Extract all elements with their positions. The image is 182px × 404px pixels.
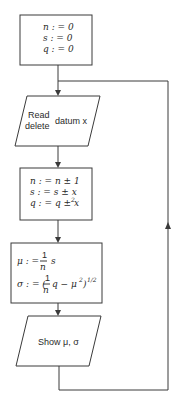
- update-line-s: s : = s ± x: [30, 187, 77, 197]
- mu-rhs: s: [51, 256, 56, 266]
- init-line-q: q : = 0: [43, 44, 74, 54]
- datum-label: datum x: [55, 116, 88, 126]
- node-show: Show μ, σ: [16, 316, 101, 366]
- sigma-frac-den: n: [43, 285, 49, 295]
- delete-label: delete: [25, 121, 50, 131]
- mu-frac-den: n: [40, 262, 46, 272]
- sigma-lhs: σ : = (: [17, 279, 46, 289]
- flowchart: n : = 0 s : = 0 q : = 0 Read delete datu…: [0, 0, 182, 404]
- node-init: n : = 0 s : = 0 q : = 0: [20, 15, 92, 65]
- sigma-rhs: q − μ: [52, 279, 77, 289]
- init-line-n: n : = 0: [43, 22, 74, 32]
- sigma-frac-num: 1: [45, 273, 50, 283]
- node-read: Read delete datum x: [15, 96, 100, 146]
- init-line-s: s : = 0: [43, 33, 73, 43]
- sigma-exp: 1/2: [87, 276, 97, 283]
- arrow-down-icon: [55, 237, 61, 243]
- arrow-down-icon: [55, 162, 61, 168]
- node-update: n : = n ± 1 s : = s ± x q : = q ± x 2: [20, 168, 92, 220]
- node-compute: μ : = 1 n s σ : = ( 1 n q − μ 2 ) 1/2: [11, 243, 102, 303]
- update-superscript: 2: [70, 196, 75, 203]
- read-label: Read: [28, 110, 50, 120]
- mu-frac-num: 1: [42, 250, 47, 260]
- mu-lhs: μ : =: [17, 256, 39, 266]
- arrow-down-icon: [55, 310, 61, 316]
- arrow-up-icon: [165, 222, 171, 229]
- arrow-down-icon: [55, 90, 61, 96]
- show-label: Show μ, σ: [38, 337, 79, 347]
- update-line-n: n : = n ± 1: [30, 176, 80, 186]
